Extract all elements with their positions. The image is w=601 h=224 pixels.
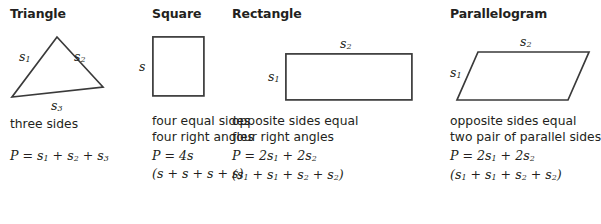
triangle-description: three sides [10, 117, 78, 133]
parallelogram-shape [450, 45, 598, 109]
rectangle-formula-text: P = 2s1 + 2s2 [232, 148, 317, 163]
triangle-side-2-sub: 2 [80, 55, 85, 64]
triangle-perimeter-formula: P = s1 + s2 + s3 [10, 148, 109, 163]
square-expansion-text: (s + s + s + s) [152, 166, 243, 181]
triangle-side-1-label: s1 [19, 49, 31, 64]
parallelogram-desc-line-1: opposite sides equal [450, 114, 601, 130]
triangle-formula-text: P = s1 + s2 + s3 [10, 148, 109, 163]
triangle-side-2-label: s2 [74, 49, 86, 64]
parallelogram-desc-line-2: two pair of parallel sides [450, 130, 601, 146]
column-title-square: Square [152, 6, 201, 21]
rectangle-description: opposite sides equal four right angles [232, 114, 358, 145]
square-outline [153, 37, 204, 96]
parallelogram-outline [457, 52, 589, 100]
rectangle-figure [285, 53, 415, 105]
parallelogram-side-1-sub: 1 [456, 71, 461, 80]
rectangle-perimeter-formula: P = 2s1 + 2s2 [232, 148, 317, 163]
square-side-label: s [139, 59, 145, 74]
rectangle-side-2-label: s2 [340, 36, 352, 51]
parallelogram-perimeter-expansion: (s1 + s1 + s2 + s2) [450, 167, 562, 182]
parallelogram-formula-text: P = 2s1 + 2s2 [450, 148, 535, 163]
rectangle-side-1-sub: 1 [274, 75, 279, 84]
rectangle-expansion-text: (s1 + s1 + s2 + s2) [232, 167, 344, 182]
rectangle-side-1-label: s1 [268, 69, 280, 84]
triangle-side-3-label: s3 [51, 98, 63, 113]
column-title-rectangle: Rectangle [232, 6, 302, 21]
parallelogram-side-2-label: s2 [520, 34, 532, 49]
parallelogram-side-1-label: s1 [450, 65, 462, 80]
square-shape [152, 36, 208, 100]
parallelogram-description: opposite sides equal two pair of paralle… [450, 114, 601, 145]
parallelogram-side-2-sub: 2 [526, 40, 531, 49]
square-perimeter-expansion: (s + s + s + s) [152, 166, 243, 181]
rectangle-desc-line-1: opposite sides equal [232, 114, 358, 130]
triangle-side-1-sub: 1 [25, 55, 30, 64]
rectangle-desc-line-2: four right angles [232, 130, 358, 146]
rectangle-shape [285, 53, 415, 105]
rectangle-outline [286, 54, 412, 100]
square-formula-text: P = 4s [152, 148, 194, 163]
triangle-outline [12, 37, 103, 97]
parallelogram-perimeter-formula: P = 2s1 + 2s2 [450, 148, 535, 163]
column-title-parallelogram: Parallelogram [450, 6, 547, 21]
rectangle-perimeter-expansion: (s1 + s1 + s2 + s2) [232, 167, 344, 182]
parallelogram-figure [450, 45, 598, 109]
rectangle-side-2-sub: 2 [346, 42, 351, 51]
triangle-side-3-sub: 3 [57, 104, 62, 113]
triangle-desc-line-1: three sides [10, 117, 78, 133]
square-perimeter-formula: P = 4s [152, 148, 194, 163]
square-side-letter: s [139, 59, 145, 74]
square-figure [152, 36, 208, 100]
parallelogram-expansion-text: (s1 + s1 + s2 + s2) [450, 167, 562, 182]
